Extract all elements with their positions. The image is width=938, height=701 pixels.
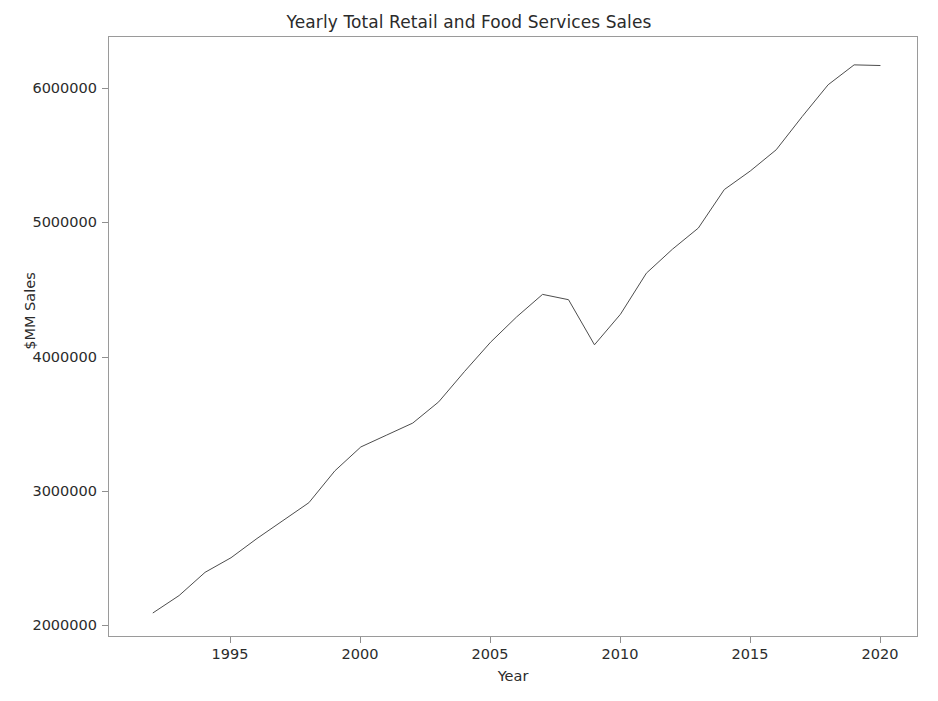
chart-figure: Yearly Total Retail and Food Services Sa… [0,0,938,701]
y-tick-label: 4000000 [32,349,97,365]
data-series-line [153,65,880,613]
x-tick-label: 2005 [472,646,509,662]
x-tick-label: 2010 [602,646,639,662]
x-tick-label: 1995 [212,646,249,662]
x-tick-label: 2020 [862,646,899,662]
plot-area [108,36,918,637]
y-tick-label: 6000000 [32,80,97,96]
x-tick-label: 2000 [342,646,379,662]
x-tick-label: 2015 [732,646,769,662]
y-tick-label: 2000000 [32,617,97,633]
x-axis-label: Year [108,668,918,684]
data-line-svg [109,37,919,638]
y-axis-tick-labels: 6000000 5000000 4000000 3000000 2000000 [0,0,97,701]
y-tick-label: 5000000 [32,214,97,230]
chart-title: Yearly Total Retail and Food Services Sa… [0,12,938,32]
y-tick-label: 3000000 [32,483,97,499]
